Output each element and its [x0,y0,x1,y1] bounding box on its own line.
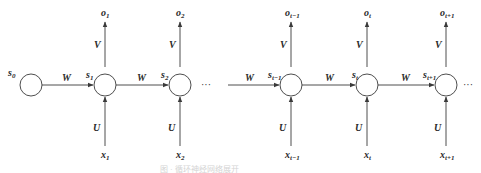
state-label-s0: s0 [7,67,16,80]
node-s2 [169,74,191,96]
output-label-o2: o2 [176,7,185,20]
state-label-s-t: st [351,69,359,82]
weight-u-label: U [355,122,363,133]
node-s-t [356,74,378,96]
state-label-s1: s1 [85,69,93,82]
ellipsis-end: ··· [463,79,473,90]
weight-u-label: U [434,122,442,133]
node-s0 [20,74,42,96]
weight-w-label: W [245,72,255,83]
weight-v-label: V [356,39,364,50]
weight-w-label: W [401,72,411,83]
state-label-s2: s2 [160,69,169,82]
rnn-diagram: W W W W W U U U U U V V V V V [0,0,481,173]
weight-v-label: V [280,39,288,50]
weight-w-label: W [325,72,335,83]
output-label-o-t-1: ot−1 [285,7,300,20]
ellipsis-middle: ··· [201,79,211,90]
input-label-x2: x2 [175,149,185,162]
figure-caption: 图 · 循环神经网络展开 [160,164,239,173]
weight-w-label: W [137,72,147,83]
weight-v-label: V [94,39,102,50]
state-label-s-t-1: st−1 [267,69,282,82]
output-label-o1: o1 [101,7,110,20]
input-label-x-t-1: xt−1 [284,149,300,162]
state-label-s-t+1: st+1 [422,69,436,82]
input-label-x-t: xt [363,149,372,162]
weight-v-label: V [435,39,443,50]
node-s1 [94,74,116,96]
output-label-o-t: ot [364,7,372,20]
input-edges [105,97,446,146]
weight-u-label: U [279,122,287,133]
weight-u-label: U [93,122,101,133]
output-edges [105,22,446,67]
input-label-x-t+1: xt+1 [439,149,454,162]
node-s-t+1 [435,74,457,96]
weight-w-label: W [62,72,72,83]
weight-v-label: V [169,39,177,50]
output-label-o-t+1: ot+1 [440,7,454,20]
weight-u-label: U [168,122,176,133]
node-s-t-1 [280,74,302,96]
input-label-x1: x1 [100,149,110,162]
